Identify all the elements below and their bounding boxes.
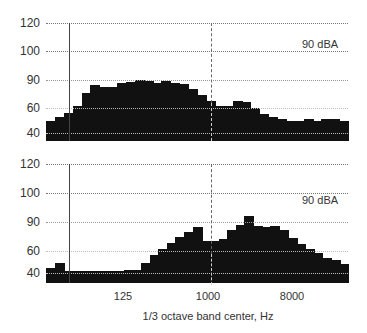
gridline-overlay: [46, 108, 348, 109]
bottom-chart: 120 100 90 60 40 90 dBA: [0, 150, 367, 295]
gridline: [46, 23, 348, 24]
ytick-100: 100: [0, 186, 40, 200]
gridline: [46, 51, 348, 52]
1000hz-marker: [211, 164, 212, 254]
gridline-overlay: [46, 80, 348, 81]
gridline-overlay: [46, 133, 348, 134]
gridline: [46, 164, 348, 165]
ytick-90: 90: [0, 215, 40, 229]
reference-line: [69, 23, 70, 141]
ytick-100: 100: [0, 44, 40, 58]
ytick-120: 120: [0, 157, 40, 171]
x-axis-label: 1/3 octave band center, Hz: [143, 310, 274, 322]
reference-line: [69, 164, 70, 283]
ytick-60: 60: [0, 101, 40, 115]
xtick-125: 125: [114, 290, 132, 302]
1000hz-marker-overlay: [211, 254, 212, 285]
ytick-60: 60: [0, 244, 40, 258]
1000hz-marker-overlay: [211, 103, 212, 141]
gridline-overlay: [46, 251, 348, 252]
gridline-overlay: [46, 222, 348, 223]
spectrum-bar: [339, 121, 349, 141]
ytick-40: 40: [0, 266, 40, 280]
top-chart: 120 100 90 60 40 90 dBA: [0, 0, 367, 150]
gridline-overlay: [46, 273, 348, 274]
ytick-90: 90: [0, 73, 40, 87]
level-annotation: 90 dBA: [302, 38, 338, 50]
1000hz-marker: [211, 23, 212, 103]
ytick-40: 40: [0, 126, 40, 140]
level-annotation: 90 dBA: [302, 194, 338, 206]
ytick-120: 120: [0, 16, 40, 30]
xtick-1000: 1000: [196, 290, 220, 302]
xtick-8000: 8000: [280, 290, 304, 302]
